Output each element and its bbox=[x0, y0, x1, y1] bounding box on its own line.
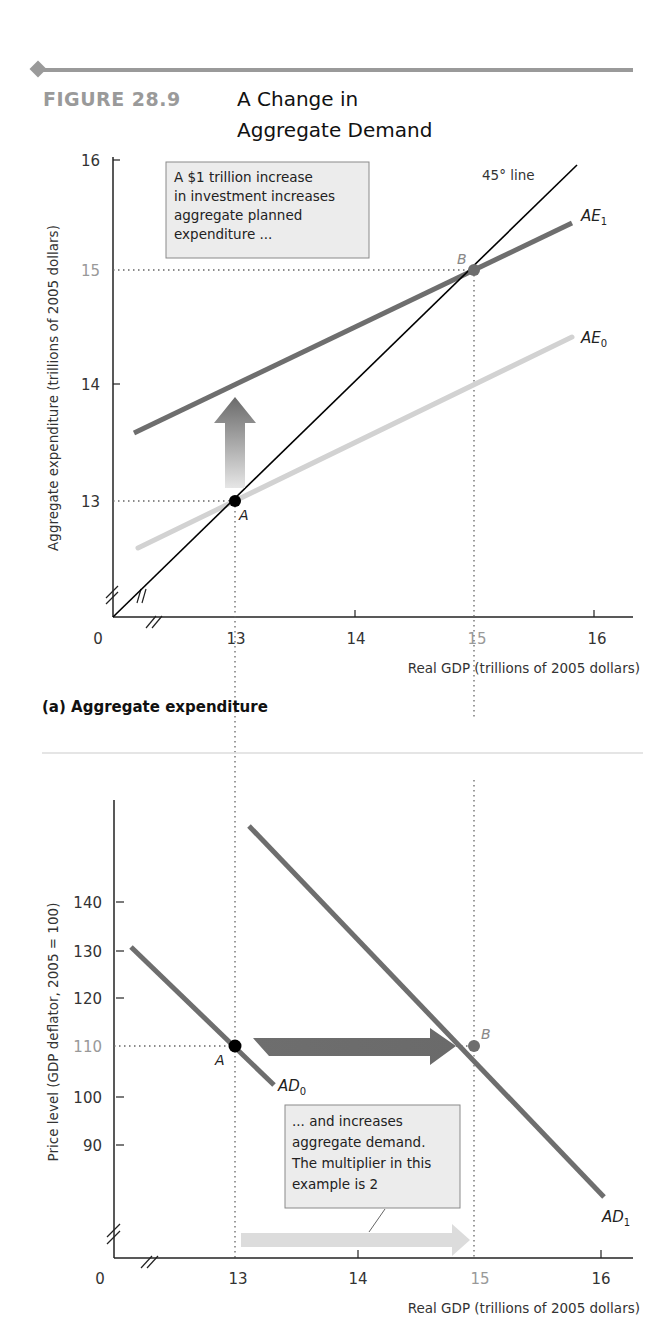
up-arrow-icon bbox=[214, 397, 256, 488]
figure-number: FIGURE 28.9 bbox=[43, 88, 181, 110]
y-tick-label: 13 bbox=[81, 493, 100, 511]
y-ticks bbox=[116, 902, 124, 1145]
x-axis-title: Real GDP (trillions of 2005 dollars) bbox=[408, 660, 640, 676]
chart-aggregate-demand: 140 130 120 110 100 90 0 13 14 15 16 Rea… bbox=[45, 800, 640, 1316]
multiplier-arrow-icon bbox=[241, 1224, 470, 1256]
figure-header: FIGURE 28.9 A Change in Aggregate Demand bbox=[30, 61, 633, 142]
svg-text:A $1 trillion increase: A $1 trillion increase bbox=[174, 169, 313, 185]
y-axis-title: Aggregate expenditure (trillions of 2005… bbox=[45, 225, 61, 551]
y-tick-label: 15 bbox=[81, 262, 100, 280]
svg-text:aggregate planned: aggregate planned bbox=[174, 207, 302, 223]
forty-five-label: 45° line bbox=[482, 167, 535, 183]
point-b-label: B bbox=[457, 251, 467, 267]
axis-break-marks bbox=[106, 586, 162, 628]
y-tick-label: 110 bbox=[73, 1038, 102, 1056]
y-tick-label: 16 bbox=[81, 152, 100, 170]
y-tick-label: 90 bbox=[83, 1137, 102, 1155]
x-tick-label: 15 bbox=[470, 1270, 489, 1288]
y-tick-label: 14 bbox=[81, 376, 100, 394]
x-tick-label: 13 bbox=[226, 630, 245, 648]
ae0-curve bbox=[138, 337, 572, 548]
y-tick-label: 130 bbox=[73, 943, 102, 961]
x-axis-title: Real GDP (trillions of 2005 dollars) bbox=[408, 1300, 640, 1316]
y-tick-label: 140 bbox=[73, 894, 102, 912]
x-tick-label: 16 bbox=[591, 1270, 610, 1288]
panel-a-label: (a) Aggregate expenditure bbox=[42, 698, 268, 716]
point-b bbox=[468, 264, 480, 276]
y-axis-title: Price level (GDP deflator, 2005 = 100) bbox=[45, 903, 61, 1162]
svg-text:The multiplier in this: The multiplier in this bbox=[291, 1155, 431, 1171]
x-tick-label: 0 bbox=[93, 630, 103, 648]
point-a-label: A bbox=[238, 507, 249, 523]
x-tick-label: 15 bbox=[467, 630, 486, 648]
x-tick-label: 16 bbox=[587, 630, 606, 648]
y-tick-label: 120 bbox=[73, 990, 102, 1008]
ae1-label: AE1 bbox=[580, 207, 607, 227]
svg-text:in investment increases: in investment increases bbox=[174, 188, 335, 204]
svg-text:example is 2: example is 2 bbox=[292, 1176, 378, 1192]
point-a-label: A bbox=[214, 1052, 225, 1068]
bottom-callout: ... and increases aggregate demand. The … bbox=[285, 1105, 460, 1232]
ad0-label: AD0 bbox=[277, 1077, 306, 1097]
point-b bbox=[468, 1040, 480, 1052]
svg-text:expenditure ...: expenditure ... bbox=[174, 226, 272, 242]
figure-title-line2: Aggregate Demand bbox=[237, 118, 432, 142]
figure-title-line1: A Change in bbox=[237, 87, 358, 111]
header-rule bbox=[36, 68, 633, 72]
x-tick-label: 14 bbox=[346, 630, 365, 648]
top-callout: A $1 trillion increase in investment inc… bbox=[166, 162, 369, 258]
header-diamond bbox=[30, 61, 47, 78]
figure-28-9: FIGURE 28.9 A Change in Aggregate Demand… bbox=[0, 0, 658, 1335]
svg-text:... and increases: ... and increases bbox=[292, 1113, 403, 1129]
point-a bbox=[229, 1040, 242, 1053]
y-tick-label: 100 bbox=[73, 1089, 102, 1107]
point-b-label: B bbox=[481, 1026, 491, 1042]
x-tick-label: 0 bbox=[95, 1270, 105, 1288]
right-arrow-icon bbox=[253, 1028, 456, 1065]
ad0-curve bbox=[131, 947, 274, 1085]
x-tick-label: 13 bbox=[228, 1270, 247, 1288]
point-a bbox=[229, 495, 241, 507]
x-tick-label: 14 bbox=[348, 1270, 367, 1288]
ad1-label: AD1 bbox=[601, 1208, 630, 1228]
svg-text:aggregate demand.: aggregate demand. bbox=[292, 1134, 425, 1150]
ae0-label: AE0 bbox=[580, 329, 607, 349]
